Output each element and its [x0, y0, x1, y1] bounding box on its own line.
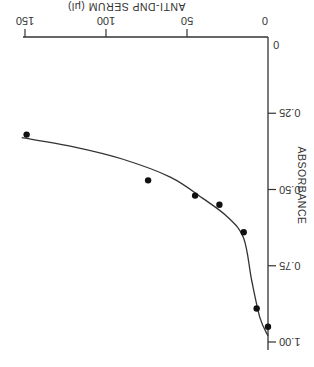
fitted-curve-path — [22, 138, 268, 336]
y-tick-label: 1.00 — [279, 336, 300, 348]
axes: 05010015000.250.500.751.00 — [16, 15, 301, 350]
data-point — [145, 177, 151, 183]
x-tick-label: 100 — [97, 15, 115, 27]
x-tick-label: 0 — [262, 15, 268, 27]
y-tick-label: 0 — [273, 39, 279, 51]
x-tick-label: 150 — [16, 15, 34, 27]
chart: 05010015000.250.500.751.00 ANTI-DNP SERU… — [0, 0, 314, 367]
fitted-curve — [22, 138, 268, 336]
data-point — [241, 229, 247, 235]
data-points — [23, 131, 271, 330]
data-point — [265, 324, 271, 330]
y-tick-label: 0.75 — [279, 260, 300, 272]
data-point — [216, 202, 222, 208]
x-axis-label: ANTI-DNP SERUM (μl) — [67, 1, 185, 13]
chart-svg: 05010015000.250.500.751.00 ANTI-DNP SERU… — [0, 0, 314, 367]
data-point — [23, 131, 29, 137]
x-tick-label: 50 — [181, 15, 193, 27]
y-tick-label: 0.25 — [279, 107, 300, 119]
data-point — [192, 192, 198, 198]
y-axis-label: ABSORBANCE — [296, 147, 308, 225]
data-point — [253, 305, 259, 311]
